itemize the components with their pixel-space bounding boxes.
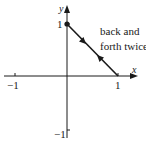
parametric-path-diagram: −1 1 1 −1 x y back and forth twice	[0, 0, 146, 141]
x-axis-label: x	[131, 64, 137, 75]
annotation-line-2: forth twice	[100, 40, 146, 52]
start-point-dot	[64, 21, 69, 26]
y-tick-label-1: 1	[57, 18, 63, 30]
annotation-line-1: back and	[100, 25, 140, 37]
y-axis-label: y	[58, 3, 64, 14]
diagram-svg: −1 1 1 −1 x y back and forth twice	[0, 0, 146, 141]
y-axis-arrowhead-icon	[64, 5, 70, 13]
x-tick-label-minus-1: −1	[7, 79, 19, 91]
y-tick-label-minus-1: −1	[54, 128, 66, 140]
x-tick-label-1: 1	[115, 79, 121, 91]
